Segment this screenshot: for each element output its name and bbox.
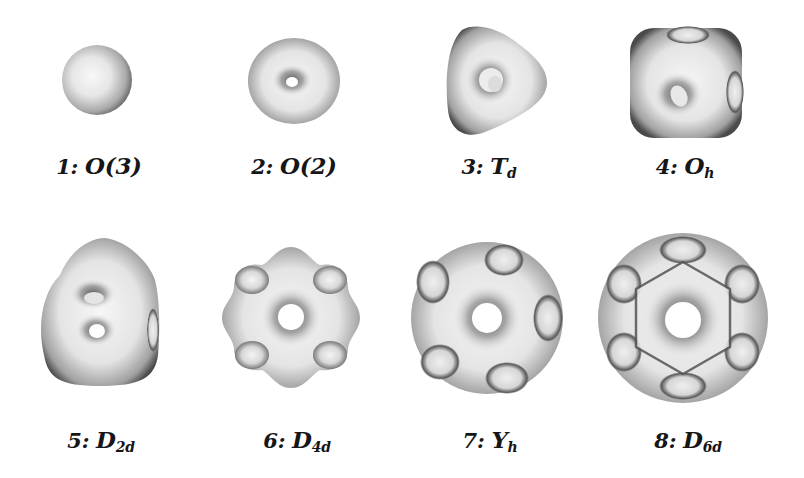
label-subscript: 6d — [703, 439, 722, 455]
label-symbol: D — [683, 426, 703, 453]
label-symbol: O(3) — [85, 152, 142, 179]
label-subscript: 2d — [116, 439, 135, 455]
shapes-canvas — [0, 0, 804, 478]
shape-3-tetrahedral — [447, 26, 547, 134]
label-separator: : — [71, 154, 78, 179]
label-subscript: h — [704, 165, 714, 181]
label-separator: : — [82, 428, 89, 453]
shape-4-octahedral-cube — [630, 26, 744, 138]
label-2: 2: O(2) — [251, 154, 336, 177]
label-subscript: d — [507, 165, 517, 181]
label-index: 6 — [263, 428, 277, 453]
label-index: 5 — [67, 428, 81, 453]
symmetry-figure: 1: O(3) 2: O(2) 3: Td 4: Oh 5: D2d 6: D4… — [0, 0, 804, 478]
shape-1-sphere — [62, 45, 132, 115]
label-symbol: O — [685, 152, 705, 179]
label-index: 4 — [656, 154, 670, 179]
label-8: 8: D6d — [654, 428, 721, 451]
label-1: 1: O(3) — [56, 154, 141, 177]
label-index: 7 — [463, 428, 477, 453]
label-separator: : — [278, 428, 285, 453]
label-symbol: O(2) — [280, 152, 337, 179]
label-index: 8 — [654, 428, 668, 453]
shape-2-torus — [248, 38, 340, 124]
label-7: 7: Yh — [463, 428, 518, 451]
label-index: 3 — [461, 154, 475, 179]
label-separator: : — [266, 154, 273, 179]
label-3: 3: Td — [461, 154, 516, 177]
label-symbol: T — [490, 152, 507, 179]
label-index: 2 — [251, 154, 265, 179]
label-5: 5: D2d — [67, 428, 134, 451]
label-separator: : — [669, 428, 676, 453]
shape-7-icosahedral — [411, 242, 563, 394]
label-6: 6: D4d — [263, 428, 330, 451]
label-separator: : — [476, 154, 483, 179]
label-subscript: 4d — [312, 439, 331, 455]
label-separator: : — [670, 154, 677, 179]
label-symbol: Y — [491, 426, 507, 453]
label-4: 4: Oh — [656, 154, 714, 177]
label-separator: : — [477, 428, 484, 453]
label-symbol: D — [96, 426, 116, 453]
label-subscript: h — [508, 439, 518, 455]
label-index: 1 — [56, 154, 70, 179]
shape-6-dihedral-4d — [222, 247, 360, 388]
shape-5-dihedral-2d — [41, 238, 159, 386]
label-symbol: D — [292, 426, 312, 453]
shape-8-dihedral-6d — [598, 233, 768, 403]
